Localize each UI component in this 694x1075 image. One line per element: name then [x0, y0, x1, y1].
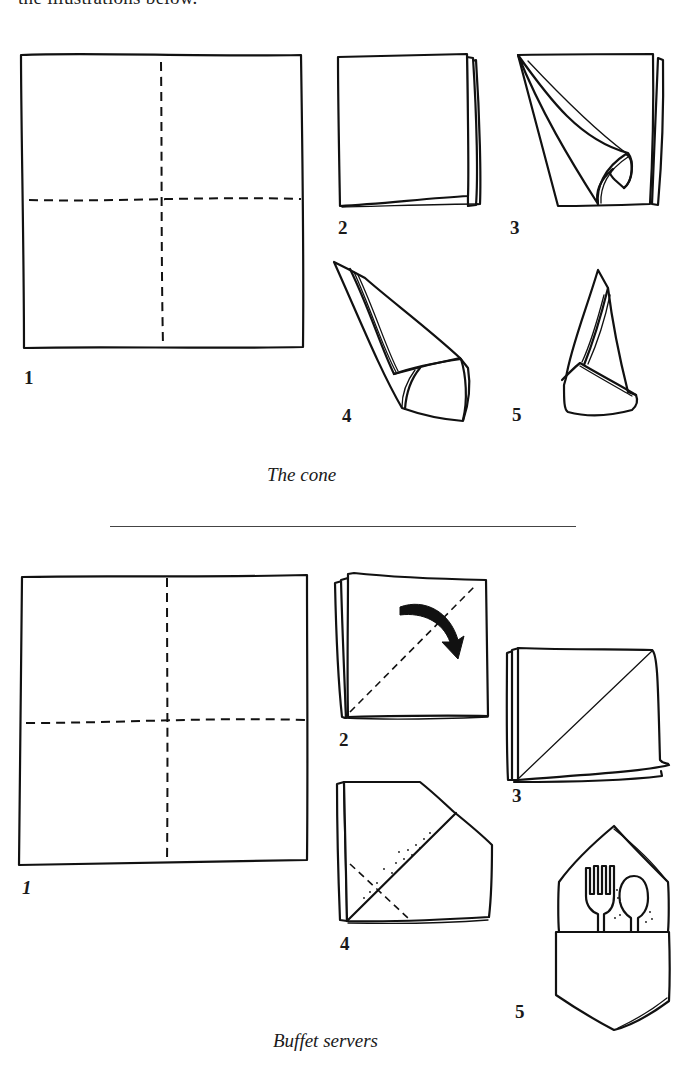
cone-step-4-number: 4 [342, 406, 352, 425]
buffet-step-2-figure [320, 560, 500, 750]
cone-step-3-number: 3 [510, 218, 520, 237]
cone-step-1-figure [0, 0, 320, 360]
cone-step-1-number: 1 [24, 368, 34, 387]
cone-step-2-figure [320, 40, 500, 230]
cone-step-2-number: 2 [338, 218, 348, 237]
buffet-step-5-figure [530, 820, 694, 1035]
cone-caption: The cone [267, 464, 336, 486]
buffet-step-3-number: 3 [512, 786, 522, 805]
cone-step-4-figure [320, 250, 500, 430]
buffet-step-4-number: 4 [340, 934, 350, 953]
cone-step-5-number: 5 [512, 405, 522, 424]
buffet-step-4-figure [320, 770, 500, 950]
cone-step-5-figure [500, 250, 694, 430]
buffet-step-1-figure [0, 560, 320, 920]
buffet-step-2-number: 2 [339, 730, 349, 749]
buffet-step-3-figure [500, 630, 694, 810]
cone-step-3-figure [500, 40, 694, 230]
buffet-caption: Buffet servers [273, 1030, 378, 1052]
buffet-step-5-number: 5 [515, 1002, 525, 1021]
section-divider [110, 526, 576, 527]
buffet-step-1-number: 1 [22, 878, 32, 897]
